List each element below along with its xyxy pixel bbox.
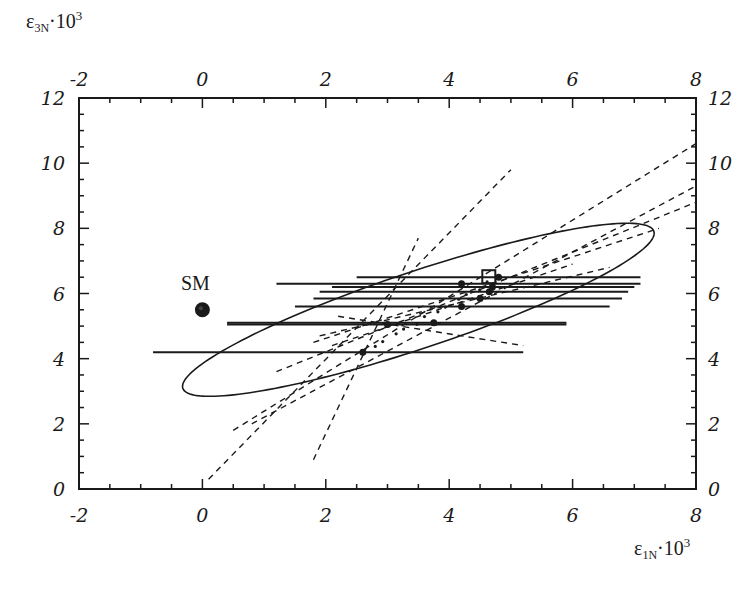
data-point: [458, 280, 465, 287]
x-tick-label-bottom: -2: [70, 504, 89, 526]
x-tick-label-bottom: 8: [690, 504, 702, 526]
sm-marker: [195, 302, 210, 317]
x-tick-label-top: 4: [442, 68, 455, 90]
trail-point: [360, 350, 363, 353]
x-axis-title: ε1N·103: [634, 535, 690, 562]
y-tick-label-right: 10: [708, 152, 732, 174]
trail-point: [415, 323, 418, 326]
dashed-lines: [209, 144, 696, 480]
data-point: [430, 319, 437, 326]
y-tick-label-left: 8: [53, 217, 65, 239]
error-bars: [153, 277, 640, 352]
trail-point: [478, 288, 481, 291]
sm-label: SM: [181, 272, 210, 294]
data-point: [384, 321, 391, 328]
plot-border: [79, 98, 696, 489]
trail-point: [465, 293, 468, 296]
plot-frame: [79, 98, 696, 489]
x-tick-label-bottom: 2: [319, 504, 332, 526]
x-tick-label-top: -2: [70, 68, 89, 90]
trail-point: [423, 315, 426, 318]
y-tick-label-left: 6: [53, 283, 65, 305]
y-tick-label-right: 6: [708, 283, 720, 305]
y-tick-label-right: 0: [708, 478, 720, 500]
trail-point: [499, 276, 502, 279]
x-tick-label-top: 8: [690, 68, 702, 90]
dashed-line: [338, 316, 523, 345]
ellipse-outline: [183, 223, 655, 396]
y-tick-label-left: 4: [52, 348, 65, 370]
x-tick-label-top: 6: [567, 68, 579, 90]
trail-point: [457, 298, 460, 301]
x-tick-label-top: 0: [196, 68, 208, 90]
chart-figure: -2-20022446688002244668810101212 ε3N·103…: [0, 0, 746, 594]
trail-point: [402, 327, 405, 330]
trail-point: [374, 345, 377, 348]
x-tick-label-top: 2: [319, 68, 332, 90]
trail-point: [395, 332, 398, 335]
sm-point-highlight: [199, 306, 203, 310]
sm-point: [195, 302, 210, 317]
trail-point: [444, 305, 447, 308]
y-tick-label-left: 12: [41, 87, 65, 109]
y-tick-label-right: 4: [707, 348, 720, 370]
data-point: [477, 295, 484, 302]
y-tick-label-right: 8: [708, 217, 720, 239]
x-tick-label-bottom: 4: [442, 504, 455, 526]
x-tick-label-bottom: 0: [196, 504, 208, 526]
axis-ticks: [79, 98, 696, 489]
y-axis-title: ε3N·103: [26, 8, 82, 35]
y-tick-label-left: 10: [41, 152, 65, 174]
data-point: [489, 283, 496, 290]
y-tick-label-right: 2: [707, 413, 720, 435]
x-tick-label-bottom: 6: [567, 504, 579, 526]
confidence-ellipse: [183, 223, 655, 396]
y-tick-label-left: 2: [52, 413, 65, 435]
trail-point: [436, 310, 439, 313]
y-tick-label-left: 0: [53, 478, 65, 500]
data-point: [458, 303, 465, 310]
y-tick-label-right: 12: [708, 87, 732, 109]
trail-point: [381, 340, 384, 343]
